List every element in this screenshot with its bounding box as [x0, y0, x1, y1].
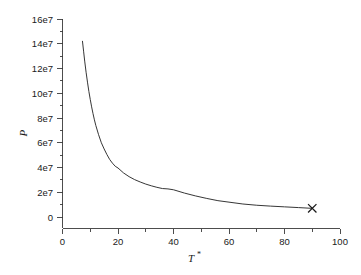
chart-background [0, 0, 361, 275]
x-tick-label: 0 [60, 236, 65, 247]
y-tick-label: 10e7 [32, 88, 53, 99]
x-axis-title-superscript: * [197, 250, 201, 259]
x-tick-label: 40 [168, 236, 179, 247]
y-tick-label: 8e7 [37, 113, 53, 124]
x-tick-label: 100 [332, 236, 348, 247]
y-tick-label: 2e7 [37, 187, 53, 198]
chart-svg: 16e7 14e7 12e7 10e7 8e7 6e7 4e7 2e7 0 P [0, 0, 361, 275]
y-tick-label: 12e7 [32, 63, 53, 74]
y-axis-title: P [17, 129, 29, 137]
x-axis-title-base: T [188, 252, 195, 264]
y-tick-label: 0 [48, 212, 53, 223]
x-tick-label: 80 [279, 236, 290, 247]
x-tick-label: 20 [113, 236, 124, 247]
y-tick-label: 6e7 [37, 137, 53, 148]
y-tick-label: 14e7 [32, 38, 53, 49]
chart-figure: 16e7 14e7 12e7 10e7 8e7 6e7 4e7 2e7 0 P [0, 0, 361, 275]
x-tick-label: 60 [224, 236, 235, 247]
y-tick-label: 4e7 [37, 162, 53, 173]
y-tick-label: 16e7 [32, 14, 53, 25]
